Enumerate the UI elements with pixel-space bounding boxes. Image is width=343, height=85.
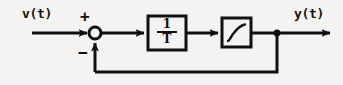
output-signal-arrow	[251, 30, 330, 37]
saturation-block	[222, 18, 251, 47]
summing-junction-plus-sign: +	[80, 9, 90, 25]
gain-block-expression: 1 T	[157, 19, 177, 45]
gain-numerator: 1	[157, 19, 177, 30]
summing-junction-minus-sign: −	[78, 45, 88, 61]
block-diagram-figure: v(t) y(t) + − 1 T	[0, 0, 343, 85]
input-signal-label: v(t)	[22, 7, 52, 20]
gain-denominator: T	[157, 34, 177, 45]
output-signal-label: y(t)	[294, 7, 324, 20]
summing-junction	[89, 27, 101, 39]
